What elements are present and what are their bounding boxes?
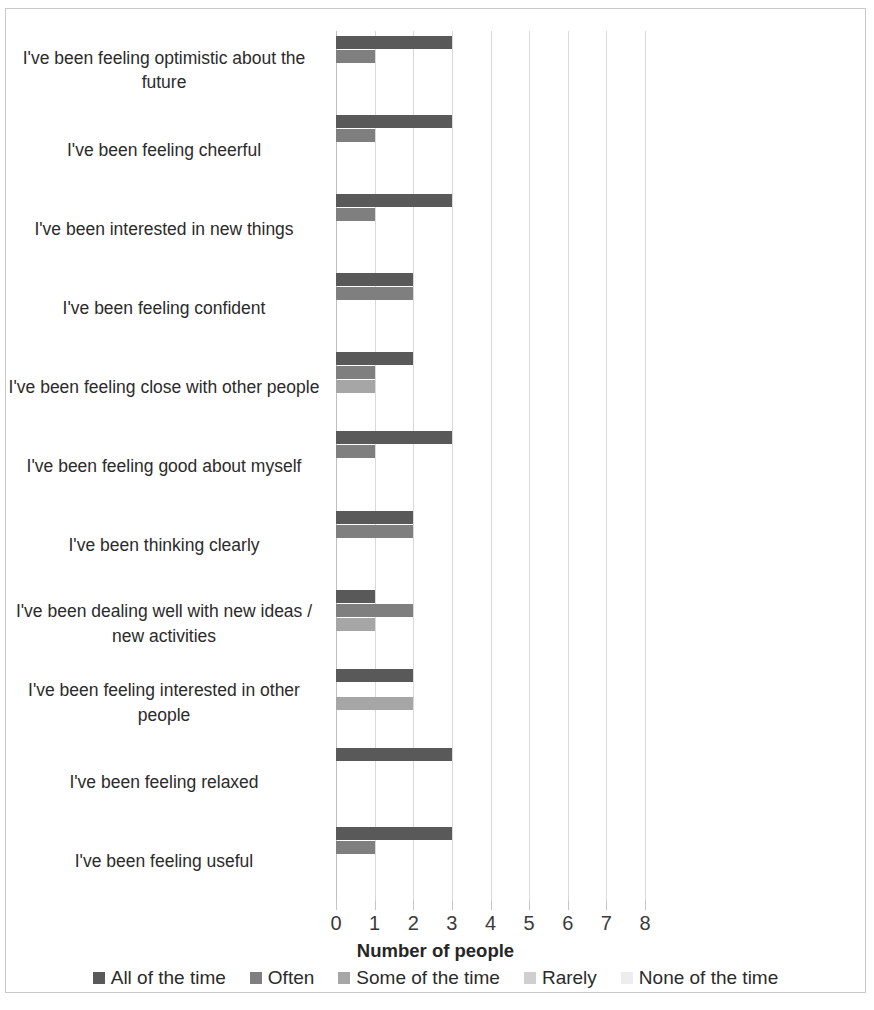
category-row: I've been dealing well with new ideas / …	[336, 585, 645, 664]
x-tick-label-8: 8	[630, 912, 660, 935]
legend-label: All of the time	[111, 967, 226, 989]
category-row: I've been interested in new things	[336, 189, 645, 268]
x-tick-label-0: 0	[321, 912, 351, 935]
bar-6-1	[336, 525, 413, 538]
legend-label: None of the time	[639, 967, 778, 989]
x-tick-label-1: 1	[360, 912, 390, 935]
bar-10-1	[336, 841, 375, 854]
category-label: I've been feeling good about myself	[4, 454, 324, 479]
x-tick-5	[529, 901, 530, 910]
bar-5-1	[336, 445, 375, 458]
gridline-8	[645, 31, 646, 901]
category-row: I've been feeling useful	[336, 822, 645, 901]
category-label: I've been feeling relaxed	[4, 770, 324, 795]
category-row: I've been feeling close with other peopl…	[336, 347, 645, 426]
bar-1-0	[336, 115, 452, 128]
bar-8-2	[336, 697, 413, 710]
x-axis-tick-labels: 012345678	[336, 912, 645, 938]
x-tick-6	[568, 901, 569, 910]
bar-7-0	[336, 590, 375, 603]
x-tick-0	[336, 901, 337, 910]
legend-item-2[interactable]: Some of the time	[338, 967, 500, 989]
bar-7-1	[336, 604, 413, 617]
legend-swatch-icon	[250, 972, 262, 984]
category-row: I've been feeling good about myself	[336, 426, 645, 505]
category-label: I've been feeling cheerful	[4, 137, 324, 162]
category-row: I've been feeling confident	[336, 268, 645, 347]
category-label: I've been feeling interested in other pe…	[4, 678, 324, 728]
category-row: I've been thinking clearly	[336, 506, 645, 585]
legend-label: Some of the time	[356, 967, 500, 989]
category-row: I've been feeling cheerful	[336, 110, 645, 189]
legend-item-4[interactable]: None of the time	[621, 967, 778, 989]
bar-2-1	[336, 208, 375, 221]
category-label: I've been feeling confident	[4, 295, 324, 320]
bar-2-0	[336, 194, 452, 207]
category-label: I've been feeling useful	[4, 849, 324, 874]
x-tick-label-7: 7	[591, 912, 621, 935]
chart-container: I've been feeling optimistic about the f…	[5, 8, 866, 993]
bar-4-2	[336, 380, 375, 393]
bar-3-1	[336, 287, 413, 300]
category-label: I've been feeling close with other peopl…	[4, 374, 324, 399]
legend-item-0[interactable]: All of the time	[93, 967, 226, 989]
x-tick-label-5: 5	[514, 912, 544, 935]
category-row: I've been feeling relaxed	[336, 743, 645, 822]
category-row: I've been feeling interested in other pe…	[336, 664, 645, 743]
bar-6-0	[336, 511, 413, 524]
x-tick-1	[375, 901, 376, 910]
bar-3-0	[336, 273, 413, 286]
bar-8-0	[336, 669, 413, 682]
x-tick-4	[491, 901, 492, 910]
category-label: I've been dealing well with new ideas / …	[4, 599, 324, 649]
bar-4-1	[336, 366, 375, 379]
bar-10-0	[336, 827, 452, 840]
legend-item-1[interactable]: Often	[250, 967, 314, 989]
bar-5-0	[336, 431, 452, 444]
x-tick-3	[452, 901, 453, 910]
x-tick-8	[645, 901, 646, 910]
bar-0-0	[336, 36, 452, 49]
legend-swatch-icon	[524, 972, 536, 984]
legend-label: Rarely	[542, 967, 597, 989]
bar-7-2	[336, 618, 375, 631]
x-tick-label-6: 6	[553, 912, 583, 935]
x-tick-2	[413, 901, 414, 910]
bar-9-0	[336, 748, 452, 761]
legend-swatch-icon	[338, 972, 350, 984]
x-tick-label-4: 4	[476, 912, 506, 935]
category-label: I've been feeling optimistic about the f…	[4, 46, 324, 96]
category-label: I've been interested in new things	[4, 216, 324, 241]
legend-swatch-icon	[93, 972, 105, 984]
x-tick-7	[606, 901, 607, 910]
chart-legend: All of the timeOftenSome of the timeRare…	[6, 967, 865, 989]
category-row: I've been feeling optimistic about the f…	[336, 31, 645, 110]
x-tick-label-2: 2	[398, 912, 428, 935]
legend-item-3[interactable]: Rarely	[524, 967, 597, 989]
legend-swatch-icon	[621, 972, 633, 984]
x-axis-title: Number of people	[6, 940, 865, 962]
bar-1-1	[336, 129, 375, 142]
legend-label: Often	[268, 967, 314, 989]
bar-4-0	[336, 352, 413, 365]
x-tick-label-3: 3	[437, 912, 467, 935]
plot-area: I've been feeling optimistic about the f…	[336, 31, 645, 901]
category-label: I've been thinking clearly	[4, 533, 324, 558]
bar-0-1	[336, 50, 375, 63]
